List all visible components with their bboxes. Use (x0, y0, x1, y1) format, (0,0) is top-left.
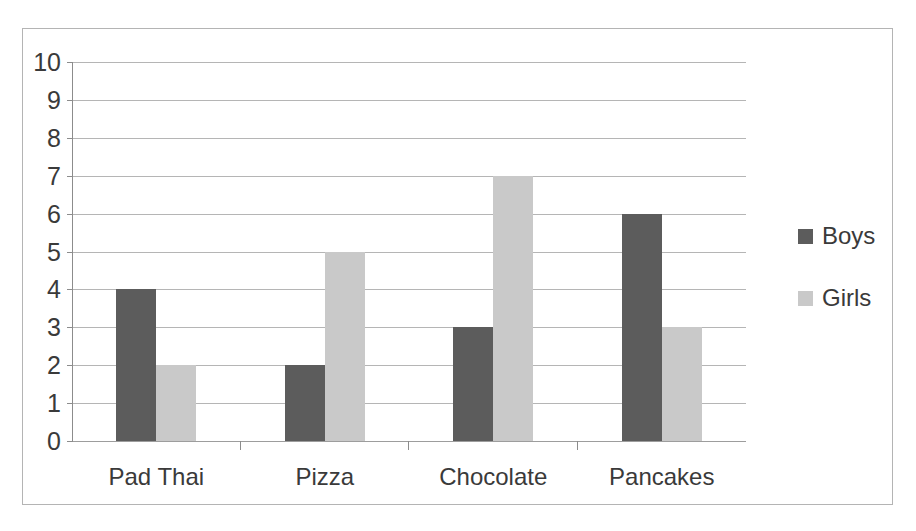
boys-swatch-icon (798, 229, 813, 244)
category-axis-tick (408, 441, 409, 450)
bar-girls[interactable] (662, 327, 702, 441)
plot-area: 012345678910Pad ThaiPizzaChocolatePancak… (72, 62, 746, 441)
x-axis-category-label: Pizza (295, 465, 354, 489)
y-axis-tick-label-0: 0 (47, 429, 61, 454)
bar-boys[interactable] (622, 214, 662, 441)
category-axis-tick (240, 441, 241, 450)
bar-boys[interactable] (453, 327, 493, 441)
girls-swatch-icon (798, 291, 813, 306)
bar-girls[interactable] (493, 176, 533, 441)
y-axis-tick-label-7: 7 (47, 163, 61, 188)
y-axis-tick-label-2: 2 (47, 353, 61, 378)
bar-group: Pad Thai (72, 62, 241, 441)
y-axis-tick-label-6: 6 (47, 201, 61, 226)
bar-chart-figure: 012345678910Pad ThaiPizzaChocolatePancak… (0, 0, 916, 531)
bar-boys[interactable] (285, 365, 325, 441)
y-axis-tick-label-3: 3 (47, 315, 61, 340)
y-axis-tick-label-9: 9 (47, 87, 61, 112)
legend-item-girls[interactable]: Girls (798, 286, 875, 310)
bar-group: Pizza (241, 62, 410, 441)
bar-girls[interactable] (156, 365, 196, 441)
legend-item-boys[interactable]: Boys (798, 224, 875, 248)
legend-label-boys: Boys (822, 224, 875, 248)
category-axis-tick (577, 441, 578, 450)
y-axis-tick-label-8: 8 (47, 125, 61, 150)
x-axis-category-label: Pad Thai (108, 465, 204, 489)
bar-boys[interactable] (116, 289, 156, 441)
y-axis-tick-label-1: 1 (47, 391, 61, 416)
gridline-0 (72, 441, 746, 442)
y-axis-tick-label-5: 5 (47, 239, 61, 264)
y-axis-tick-label-10: 10 (33, 50, 61, 75)
x-axis-category-label: Pancakes (609, 465, 714, 489)
legend-label-girls: Girls (822, 286, 871, 310)
x-axis-category-label: Chocolate (439, 465, 547, 489)
chart-legend: Boys Girls (798, 224, 875, 310)
bar-group: Pancakes (578, 62, 747, 441)
y-axis-tick-label-4: 4 (47, 277, 61, 302)
bar-group: Chocolate (409, 62, 578, 441)
y-tick-mark-0 (67, 441, 73, 442)
bar-girls[interactable] (325, 252, 365, 442)
